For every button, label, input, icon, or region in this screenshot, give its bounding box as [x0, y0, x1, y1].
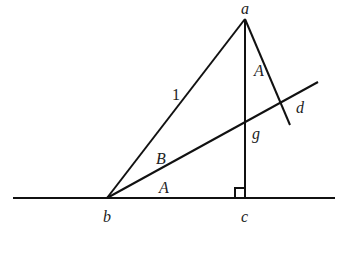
angle-label-A-bottom: A	[158, 179, 169, 196]
point-label-d: d	[296, 99, 305, 116]
angle-label-A-top: A	[253, 62, 264, 79]
right-angle-marker	[235, 188, 245, 198]
point-label-b: b	[103, 208, 111, 225]
geometry-diagram: a b c g d 1 A B A	[0, 0, 341, 259]
point-label-c: c	[241, 208, 248, 225]
diagram-canvas: a b c g d 1 A B A	[0, 0, 341, 259]
line-bd	[107, 82, 318, 198]
point-label-g: g	[252, 125, 260, 143]
point-label-a: a	[241, 0, 249, 17]
side-length-label: 1	[172, 86, 180, 103]
angle-label-B: B	[156, 150, 166, 167]
segments	[13, 19, 335, 198]
hypotenuse-ab	[107, 19, 245, 198]
